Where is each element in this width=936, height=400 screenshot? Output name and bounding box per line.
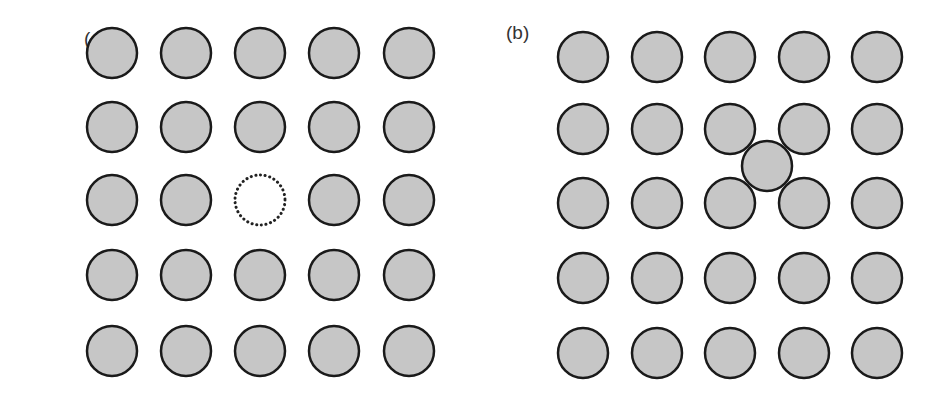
lattice-atom	[632, 104, 682, 154]
lattice-atom	[87, 250, 137, 300]
lattice-atom	[779, 178, 829, 228]
lattice-atom	[161, 175, 211, 225]
panel-b-interstitial-lattice	[558, 32, 902, 378]
lattice-atom	[705, 253, 755, 303]
lattice-atom	[852, 253, 902, 303]
vacancy-site	[235, 175, 285, 225]
lattice-atom	[558, 328, 608, 378]
lattice-atom	[852, 328, 902, 378]
lattice-atom	[384, 102, 434, 152]
lattice-atom	[161, 102, 211, 152]
lattice-atom	[235, 326, 285, 376]
lattice-atom	[87, 102, 137, 152]
lattice-atom	[235, 250, 285, 300]
lattice-atom	[309, 28, 359, 78]
lattice-atom	[705, 328, 755, 378]
lattice-atom	[632, 253, 682, 303]
lattice-atom	[632, 328, 682, 378]
lattice-atom	[309, 326, 359, 376]
lattice-atom	[384, 175, 434, 225]
lattice-atom	[384, 250, 434, 300]
lattice-atom	[705, 178, 755, 228]
lattice-atom	[87, 28, 137, 78]
lattice-atom	[779, 104, 829, 154]
lattice-atom	[705, 32, 755, 82]
lattice-atom	[558, 104, 608, 154]
lattice-atom	[632, 32, 682, 82]
lattice-atom	[632, 178, 682, 228]
lattice-atom	[309, 250, 359, 300]
lattice-atom	[161, 250, 211, 300]
lattice-atom	[558, 253, 608, 303]
interstitial-atom	[742, 141, 792, 191]
lattice-atom	[235, 28, 285, 78]
lattice-atom	[235, 102, 285, 152]
lattice-diagram	[0, 0, 936, 400]
lattice-atom	[705, 104, 755, 154]
lattice-atom	[161, 326, 211, 376]
lattice-atom	[852, 104, 902, 154]
lattice-atom	[852, 178, 902, 228]
lattice-atom	[852, 32, 902, 82]
lattice-atom	[779, 328, 829, 378]
lattice-atom	[384, 28, 434, 78]
lattice-atom	[87, 175, 137, 225]
panel-a-vacancy-lattice	[87, 28, 434, 376]
lattice-atom	[384, 326, 434, 376]
lattice-atom	[309, 102, 359, 152]
lattice-atom	[779, 253, 829, 303]
lattice-atom	[558, 32, 608, 82]
lattice-atom	[309, 175, 359, 225]
lattice-atom	[161, 28, 211, 78]
lattice-atom	[558, 178, 608, 228]
lattice-atom	[779, 32, 829, 82]
lattice-atom	[87, 326, 137, 376]
